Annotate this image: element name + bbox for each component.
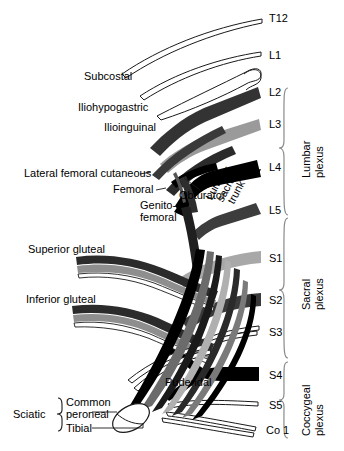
nerve-label-inferior-gluteal: Inferior gluteal xyxy=(26,293,96,305)
nerve-label-lateral-femoral-cutaneous: Lateral femoral cutaneous xyxy=(24,167,151,179)
coccygeal-plexus-line-2: plexus xyxy=(313,404,325,436)
sacral-plexus-line-1: Sacral xyxy=(300,279,312,310)
level-label-co1: Co 1 xyxy=(266,424,289,436)
nerve-label-pudendal: Pudendal xyxy=(165,376,212,388)
coccygeal-plexus-line-1: Coccygeal xyxy=(300,385,312,436)
lumbar-plexus-line-1: Lumbar xyxy=(300,141,312,178)
level-label-s1: S1 xyxy=(269,252,282,264)
nerve-label-femoral: Femoral xyxy=(113,183,153,195)
nerve-label-ilioinguinal: Ilioinguinal xyxy=(104,121,156,133)
level-label-s5: S5 xyxy=(269,399,282,411)
nerve-subcostal xyxy=(122,19,262,78)
nerve-label-tibial: Tibial xyxy=(66,422,92,434)
nerve-label-superior-gluteal: Superior gluteal xyxy=(28,243,105,255)
level-label-t12: T12 xyxy=(269,12,288,24)
level-label-l1: L1 xyxy=(269,49,281,61)
nerve-label-common-peroneal-line-2: peroneal xyxy=(66,408,109,420)
brace-lumbar-plexus xyxy=(279,88,288,215)
sacral-plexus-line-2: plexus xyxy=(313,278,325,310)
level-label-l3: L3 xyxy=(269,118,281,130)
level-label-l2: L2 xyxy=(269,86,281,98)
nerve-label-subcostal: Subcostal xyxy=(84,70,132,82)
lumbosacral-plexus-figure: T12 L1 L2 L3 L4 L5 S1 S2 S3 S4 S5 Co 1 S… xyxy=(0,0,344,451)
leader-femoral xyxy=(156,188,166,190)
nerve-root-l5 xyxy=(193,203,261,240)
level-label-s3: S3 xyxy=(269,326,282,338)
nerve-label-genitofemoral: Genito- femoral xyxy=(140,199,200,223)
lumbar-plexus-line-2: plexus xyxy=(313,146,325,178)
genitofemoral-line-2: femoral xyxy=(140,211,177,223)
level-label-l4: L4 xyxy=(269,161,281,173)
level-label-s2: S2 xyxy=(269,294,282,306)
genitofemoral-line-1: Genito- xyxy=(140,199,176,211)
level-label-l5: L5 xyxy=(269,204,281,216)
nerve-label-iliohypogastric: Iliohypogastric xyxy=(78,101,148,113)
nerve-label-sciatic: Sciatic xyxy=(13,408,45,420)
level-label-s4: S4 xyxy=(269,369,282,381)
sciatic-brace xyxy=(57,398,62,431)
nerve-label-common-peroneal-line-1: Common xyxy=(66,396,111,408)
